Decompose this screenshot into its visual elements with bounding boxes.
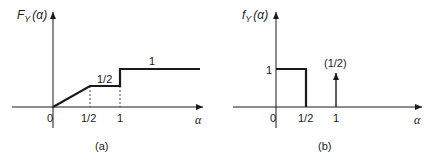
y-axis-label: FY(α) bbox=[17, 8, 47, 24]
cdf-curve bbox=[53, 69, 200, 107]
y-axis-label: fY(α) bbox=[242, 8, 268, 24]
x-axis-label: α bbox=[414, 113, 421, 127]
tick-label: 1 bbox=[117, 112, 123, 124]
tick-label: 1 bbox=[333, 112, 339, 124]
impulse-label: (1/2) bbox=[324, 57, 347, 69]
tick-label: 1/2 bbox=[298, 112, 313, 124]
annotation-label: 1/2 bbox=[97, 73, 112, 85]
panel-a: FY(α) 0 1/2 1 α 1/2 1 (a) bbox=[12, 8, 203, 152]
tick-label: 1/2 bbox=[81, 112, 96, 124]
pdf-rectangle bbox=[276, 69, 306, 107]
y-tick-label: 1 bbox=[266, 64, 272, 76]
annotation-label: 1 bbox=[149, 55, 155, 67]
figure: FY(α) 0 1/2 1 α 1/2 1 (a) fY(α) 1 0 1/2 … bbox=[0, 0, 433, 162]
tick-label: 0 bbox=[270, 112, 276, 124]
x-axis-label: α bbox=[195, 113, 202, 127]
panel-caption: (a) bbox=[95, 140, 108, 152]
panel-caption: (b) bbox=[318, 140, 331, 152]
panel-b: fY(α) 1 0 1/2 1 α (1/2) (b) bbox=[233, 8, 422, 152]
tick-label: 0 bbox=[47, 112, 53, 124]
